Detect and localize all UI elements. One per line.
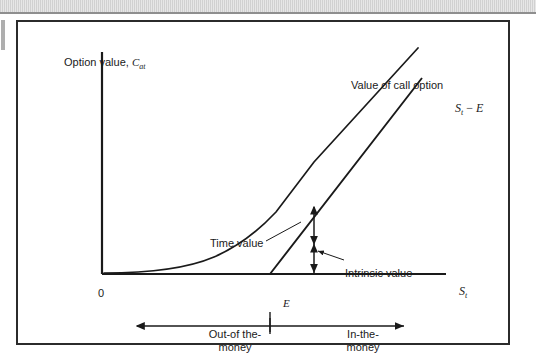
- y-axis-label: Option value, Cat: [64, 56, 145, 73]
- call-option-curve-label: Value of call option: [351, 79, 443, 91]
- figure-frame: Option value, Cat Value of call option S…: [16, 20, 510, 345]
- time-value-leader-line: [266, 222, 301, 241]
- y-axis-symbol-subscript: at: [139, 62, 145, 71]
- y-axis-label-text: Option value,: [64, 56, 132, 68]
- x-axis-symbol-subscript: t: [465, 291, 467, 300]
- intrinsic-value-label: Intrinsic value: [345, 267, 412, 279]
- x-axis-label: St: [459, 285, 467, 302]
- payoff-strike-symbol: E: [476, 101, 483, 115]
- page-scan-rule: [0, 12, 536, 14]
- page-scan-band: [0, 0, 536, 12]
- out-of-the-money-label: Out-of the- money: [187, 328, 283, 354]
- strike-price-label: E: [283, 297, 290, 309]
- page-edge-mark: [1, 20, 5, 50]
- payoff-minus-sign: −: [463, 101, 476, 115]
- in-the-money-label: In-the- money: [315, 328, 411, 354]
- origin-label: 0: [98, 287, 104, 299]
- time-value-label: Time value: [210, 237, 263, 249]
- payoff-line-label: St − E: [455, 102, 483, 119]
- intrinsic-value-leader-line: [318, 251, 344, 260]
